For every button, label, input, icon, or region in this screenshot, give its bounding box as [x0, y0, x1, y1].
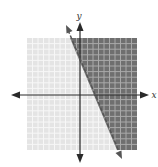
inequality-graph: y x — [0, 0, 158, 167]
boundary-line-bottom-arrow-icon — [116, 151, 123, 160]
x-axis-label: x — [151, 90, 156, 100]
x-axis-left-arrow-icon — [11, 92, 20, 99]
x-axis-right-arrow-icon — [140, 92, 149, 99]
y-axis-up-arrow-icon — [77, 22, 84, 31]
boundary-line-top-arrow-icon — [66, 25, 73, 34]
y-axis-label: y — [75, 11, 82, 21]
y-axis-down-arrow-icon — [77, 154, 84, 163]
